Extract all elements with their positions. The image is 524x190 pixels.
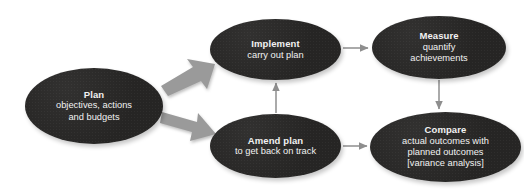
node-amend-plan-line-1: to get back on track <box>235 146 316 157</box>
node-plan[interactable]: Plan objectives, actions and budgets <box>25 68 163 144</box>
node-measure[interactable]: Measure quantify achievements <box>372 16 506 79</box>
node-compare-line-1: actual outcomes with <box>402 136 489 147</box>
block-arrow-plan-to-implement <box>160 58 218 102</box>
node-compare-line-3: [variance analysis] <box>407 158 483 169</box>
node-plan-title: Plan <box>84 89 104 101</box>
node-measure-line-2: achievements <box>410 53 467 64</box>
node-compare[interactable]: Compare actual outcomes with planned out… <box>370 112 521 182</box>
node-compare-line-2: planned outcomes <box>408 147 484 158</box>
node-plan-line-1: objectives, actions <box>56 100 132 111</box>
node-amend-plan[interactable]: Amend plan to get back on track <box>210 114 341 178</box>
node-implement[interactable]: Implement carry out plan <box>210 19 341 80</box>
node-compare-title: Compare <box>425 124 467 136</box>
node-implement-title: Implement <box>251 38 299 50</box>
node-implement-line-1: carry out plan <box>247 50 303 61</box>
diagram-canvas: Plan objectives, actions and budgets Imp… <box>0 0 524 190</box>
block-arrow-plan-to-amend <box>160 104 218 148</box>
node-amend-plan-title: Amend plan <box>248 135 303 147</box>
node-measure-title: Measure <box>419 30 458 42</box>
node-plan-line-2: and budgets <box>68 112 119 123</box>
node-measure-line-1: quantify <box>423 42 456 53</box>
